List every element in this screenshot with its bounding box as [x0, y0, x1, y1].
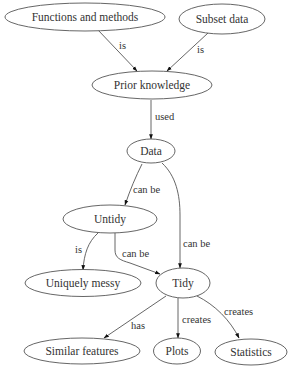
node-label: Statistics: [230, 346, 272, 358]
node-subset-data: Subset data: [179, 4, 265, 34]
edge-line: [83, 233, 98, 270]
concept-map-diagram: is is used can be can be is can be has c…: [0, 0, 292, 374]
node-label: Uniquely messy: [46, 277, 121, 290]
edge-label-is: is: [197, 44, 204, 55]
edge-label-used: used: [155, 111, 175, 122]
edge-label-creates: creates: [224, 306, 253, 317]
edge-data-to-untidy: can be: [125, 164, 160, 205]
edge-label-has: has: [131, 320, 145, 331]
edge-label-is: is: [75, 244, 82, 255]
edge-label-creates: creates: [182, 314, 211, 325]
edge-untidy-to-tidy: can be: [115, 233, 160, 274]
node-label: Plots: [165, 345, 189, 357]
edge-label-is: is: [119, 40, 126, 51]
edge-untidy-to-messy: is: [75, 233, 98, 270]
node-label: Prior knowledge: [114, 79, 190, 92]
edge-tidy-to-similar: has: [104, 296, 166, 338]
node-label: Similar features: [45, 345, 119, 357]
edge-prior-to-data: used: [151, 100, 175, 139]
node-similar-features: Similar features: [24, 338, 140, 364]
node-plots: Plots: [154, 338, 201, 364]
edge-label-can-be: can be: [122, 248, 149, 259]
node-uniquely-messy: Uniquely messy: [25, 270, 141, 297]
edge-subset-to-prior: is: [167, 33, 208, 71]
node-statistics: Statistics: [215, 339, 287, 365]
edge-label-can-be: can be: [133, 184, 160, 195]
node-label: Data: [140, 145, 162, 157]
edge-line: [98, 30, 137, 71]
edge-data-to-tidy: can be: [162, 163, 210, 268]
edge-line: [162, 163, 180, 268]
node-label: Untidy: [94, 213, 126, 226]
node-functions-and-methods: Functions and methods: [5, 3, 165, 31]
node-prior-knowledge: Prior knowledge: [92, 71, 212, 99]
node-label: Tidy: [172, 277, 194, 290]
node-untidy: Untidy: [63, 205, 157, 233]
node-label: Functions and methods: [32, 11, 139, 23]
edge-line: [104, 296, 166, 338]
node-data: Data: [127, 139, 175, 163]
edge-label-can-be: can be: [183, 238, 210, 249]
edge-functions-to-prior: is: [98, 30, 137, 71]
edge-tidy-to-plots: creates: [178, 298, 211, 338]
node-tidy: Tidy: [156, 268, 210, 298]
node-label: Subset data: [196, 13, 249, 25]
